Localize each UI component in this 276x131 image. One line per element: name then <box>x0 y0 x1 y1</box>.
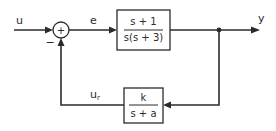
feedback-path-out: ur <box>58 38 125 105</box>
forward-numerator: s + 1 <box>130 16 156 27</box>
arrow-head-icon <box>45 27 53 34</box>
feedback-numerator: k <box>141 92 147 103</box>
input-label: u <box>16 14 23 27</box>
summing-junction: + − <box>45 22 69 49</box>
error-signal: e <box>69 14 117 34</box>
plus-sign: + <box>57 25 65 36</box>
minus-sign: − <box>45 36 54 49</box>
output-signal: y <box>170 12 265 34</box>
feedback-signal-label: ur <box>90 88 100 102</box>
feedback-path-in <box>163 30 219 109</box>
input-signal: u <box>14 14 53 34</box>
forward-denominator: s(s + 3) <box>124 32 163 43</box>
forward-block: s + 1 s(s + 3) <box>117 10 170 50</box>
arrow-head-icon <box>163 102 171 109</box>
feedback-block: k s + a <box>124 88 163 123</box>
error-label: e <box>90 14 97 27</box>
feedback-denominator: s + a <box>130 108 156 119</box>
arrow-head-icon <box>58 38 65 46</box>
output-label: y <box>258 12 265 25</box>
arrow-head-icon <box>109 27 117 34</box>
arrow-head-icon <box>251 27 260 34</box>
block-diagram: u + − e s + 1 s(s + 3) y k s + a <box>0 0 276 131</box>
